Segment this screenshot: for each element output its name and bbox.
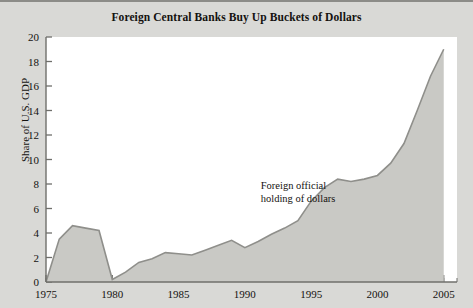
x-tick-label: 2000 [366,288,389,300]
y-tick-label: 2 [34,252,40,264]
x-axis-tick-labels: 1975198019851990199520002005 [35,288,455,300]
y-tick-label: 4 [34,227,40,239]
x-tick-label: 1975 [35,288,58,300]
y-tick-label: 12 [28,129,39,141]
series-annotation-line2: holding of dollars [261,193,336,204]
y-axis-tick-labels: 02468101214161820 [28,31,40,288]
series-annotation-line1: Foreign official [261,180,326,191]
x-tick-label: 1995 [300,288,323,300]
x-tick-label: 1985 [168,288,191,300]
y-tick-label: 8 [34,178,40,190]
x-tick-label: 1990 [234,288,257,300]
y-tick-label: 6 [34,203,40,215]
y-tick-label: 20 [28,31,40,43]
x-tick-label: 1980 [101,288,124,300]
y-tick-label: 18 [28,56,40,68]
y-tick-label: 10 [28,154,40,166]
y-tick-label: 14 [28,105,40,117]
y-tick-label: 0 [34,276,40,288]
y-tick-label: 16 [28,80,40,92]
chart-figure: Foreign Central Banks Buy Up Buckets of … [0,0,473,308]
plot-area: 02468101214161820 1975198019851990199520… [0,2,473,308]
x-tick-label: 2005 [433,288,456,300]
